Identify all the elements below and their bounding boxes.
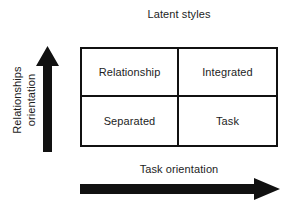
quadrant-top-left-label: Relationship (99, 66, 161, 79)
latent-styles-matrix: Relationship Integrated Separated Task (80, 47, 278, 147)
quadrant-bottom-left-label: Separated (104, 115, 156, 128)
arrow-right-icon (78, 177, 282, 201)
quadrant-bottom-right: Task (179, 97, 276, 145)
quadrant-top-right: Integrated (179, 49, 276, 97)
figure-title: Latent styles (80, 8, 278, 21)
quadrant-top-left: Relationship (82, 49, 179, 97)
quadrant-bottom-left: Separated (82, 97, 179, 145)
quadrant-bottom-right-label: Task (216, 115, 239, 128)
latent-styles-figure: Latent styles Relationships orientation … (0, 0, 295, 215)
x-axis-label: Task orientation (80, 163, 278, 176)
quadrant-top-right-label: Integrated (202, 66, 253, 79)
arrow-up-icon (34, 44, 61, 154)
y-axis-label-line1: Relationships (10, 44, 24, 156)
